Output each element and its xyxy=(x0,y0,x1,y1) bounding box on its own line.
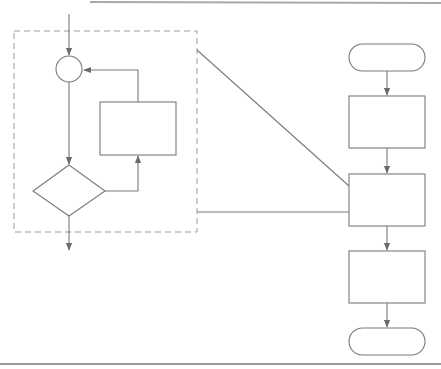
flowchart-canvas xyxy=(0,0,441,369)
end-terminator[interactable] xyxy=(349,328,425,355)
process-2-box[interactable] xyxy=(349,174,425,226)
decision-diamond[interactable] xyxy=(33,165,105,216)
start-terminator[interactable] xyxy=(349,44,425,71)
process-1-box[interactable] xyxy=(349,96,425,148)
process-3-box[interactable] xyxy=(349,251,425,303)
loop-back-arrow xyxy=(84,70,138,102)
top-edge-line xyxy=(90,2,441,3)
junction-circle[interactable] xyxy=(56,56,82,82)
loop-body-box[interactable] xyxy=(100,102,176,155)
decision-to-loop-arrow xyxy=(105,156,138,191)
detail-panel xyxy=(14,14,197,250)
zoom-connector-top xyxy=(197,50,349,186)
main-flow xyxy=(349,44,425,355)
